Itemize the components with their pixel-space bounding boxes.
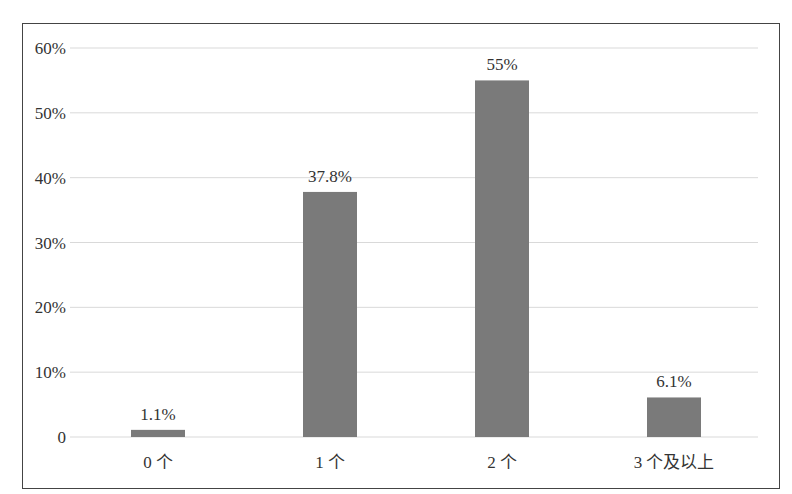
x-tick-label: 3 个及以上 <box>634 453 715 472</box>
bar <box>475 80 529 437</box>
data-label: 1.1% <box>140 405 175 424</box>
y-tick-label: 60% <box>35 39 66 58</box>
y-tick-label: 50% <box>35 104 66 123</box>
bar-chart: 010%20%30%40%50%60%1.1%0 个37.8%1 个55%2 个… <box>0 0 792 494</box>
y-tick-label: 20% <box>35 298 66 317</box>
bar <box>131 430 185 437</box>
bar <box>647 397 701 437</box>
y-tick-label: 30% <box>35 234 66 253</box>
data-label: 6.1% <box>656 372 691 391</box>
bar <box>303 192 357 437</box>
y-tick-label: 10% <box>35 363 66 382</box>
y-tick-label: 40% <box>35 169 66 188</box>
data-label: 37.8% <box>308 167 352 186</box>
y-tick-label: 0 <box>58 428 67 447</box>
x-tick-label: 1 个 <box>315 453 345 472</box>
x-tick-label: 0 个 <box>143 453 173 472</box>
x-tick-label: 2 个 <box>487 453 517 472</box>
data-label: 55% <box>486 55 517 74</box>
